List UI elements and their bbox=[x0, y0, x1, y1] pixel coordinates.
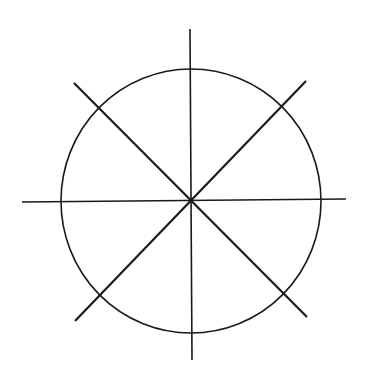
circle-diagram bbox=[0, 0, 366, 379]
vertical-line bbox=[190, 29, 192, 360]
horizontal-line bbox=[22, 199, 346, 202]
